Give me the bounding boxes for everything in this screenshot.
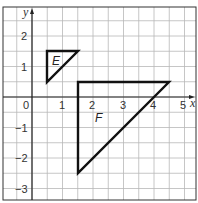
y-axis-label: y [22,5,29,19]
y-tick-neg2: −2 [15,152,28,164]
x-tick-0: 0 [23,99,29,111]
y-tick-neg3: −3 [15,183,28,195]
x-tick-3: 3 [120,99,126,111]
y-tick-neg1: −1 [15,122,28,134]
y-tick-2: 2 [21,30,27,42]
coordinate-grid: x y 0 1 2 3 4 5 2 1 −1 −2 −3 E F [0,0,198,203]
x-axis-label: x [189,96,196,110]
triangle-e-label: E [52,54,61,68]
triangle-f-label: F [95,111,103,125]
y-axis-arrow-icon [30,8,34,14]
x-tick-1: 1 [59,99,65,111]
y-tick-1: 1 [21,61,27,73]
x-tick-2: 2 [89,99,95,111]
x-tick-5: 5 [180,99,186,111]
